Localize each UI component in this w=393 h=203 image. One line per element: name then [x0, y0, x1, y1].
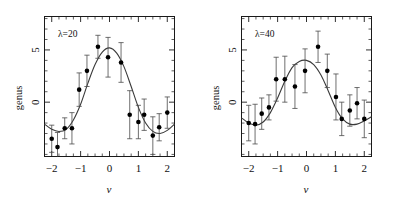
data-point-with-errorbar: [292, 65, 297, 109]
data-point-with-errorbar: [282, 56, 287, 102]
x-tick-label: −1: [75, 162, 87, 174]
x-tick-labels-right: −2−1012: [243, 162, 367, 174]
y-axis-title-left: genus: [13, 86, 24, 111]
data-point-with-errorbar: [62, 118, 67, 139]
x-tick-labels-left: −2−1012: [46, 162, 170, 174]
data-point-with-errorbar: [246, 105, 251, 141]
data-point-with-errorbar: [339, 102, 344, 135]
data-point-with-errorbar: [77, 73, 82, 106]
x-tick-label: 0: [107, 162, 113, 174]
data-point-with-errorbar: [165, 97, 170, 128]
data-point-with-errorbar: [333, 74, 338, 120]
data-point-with-errorbar: [142, 99, 147, 130]
data-point-with-errorbar: [105, 37, 110, 77]
x-tick-label: 2: [165, 162, 171, 174]
data-point-with-errorbar: [49, 125, 54, 152]
data-point-with-errorbar: [127, 91, 132, 139]
data-points-left: [49, 35, 170, 156]
y-tick-labels-right: 05: [226, 47, 238, 105]
data-point-with-errorbar: [315, 31, 320, 62]
data-point-with-errorbar: [266, 95, 271, 120]
x-tick-label: −2: [46, 162, 58, 174]
data-point-with-errorbar: [362, 100, 367, 138]
data-point-with-errorbar: [136, 105, 141, 138]
data-point-with-errorbar: [325, 54, 330, 87]
x-tick-label: 0: [304, 162, 310, 174]
x-tick-label: 2: [362, 162, 368, 174]
x-axis-title-left: ν: [107, 183, 112, 195]
data-point-with-errorbar: [302, 49, 307, 93]
x-tick-label: −2: [243, 162, 255, 174]
panel-lambda-40-svg: −2−1012 05 genus ν λ=40: [197, 0, 393, 203]
data-point-with-errorbar: [347, 95, 352, 126]
panel-lambda-20: −2−1012 05 genus ν λ=20: [0, 0, 196, 203]
data-point-with-errorbar: [157, 114, 162, 141]
fitted-curve-left: [45, 48, 175, 134]
data-point-with-errorbar: [354, 88, 359, 119]
data-point-with-errorbar: [55, 132, 60, 156]
y-tick-label: 5: [29, 47, 41, 53]
y-tick-labels-left: 05: [29, 47, 41, 105]
data-points-right: [246, 31, 367, 144]
x-tick-label: 1: [333, 162, 339, 174]
x-tick-label: 1: [136, 162, 142, 174]
fitted-curve: [45, 48, 175, 134]
data-point-with-errorbar: [274, 57, 279, 101]
panel-annotation-lambda-40: λ=40: [255, 29, 275, 39]
y-tick-label: 0: [29, 99, 41, 105]
data-point-with-errorbar: [252, 104, 257, 144]
data-point-with-errorbar: [150, 117, 155, 155]
x-tick-label: −1: [272, 162, 284, 174]
data-point-with-errorbar: [69, 113, 74, 144]
panel-annotation-lambda-20: λ=20: [58, 29, 78, 39]
panel-lambda-20-svg: −2−1012 05 genus ν λ=20: [0, 0, 196, 203]
genus-figure: −2−1012 05 genus ν λ=20 −2−1012 05 genus…: [0, 0, 393, 203]
x-axis-title-right: ν: [304, 183, 309, 195]
y-tick-label: 0: [226, 99, 238, 105]
panel-lambda-40: −2−1012 05 genus ν λ=40: [197, 0, 393, 203]
y-tick-label: 5: [226, 47, 238, 53]
y-axis-title-right: genus: [210, 86, 221, 111]
data-point-with-errorbar: [118, 43, 123, 83]
